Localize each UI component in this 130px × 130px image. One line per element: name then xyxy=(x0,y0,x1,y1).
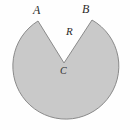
center-label-c: C xyxy=(60,66,67,76)
point-label-a: A xyxy=(33,4,40,16)
radius-label-r: R xyxy=(66,26,73,37)
point-label-b: B xyxy=(82,3,89,15)
geometry-figure: A B R C xyxy=(0,0,130,130)
